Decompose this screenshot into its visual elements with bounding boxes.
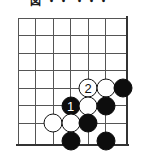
black-stone-c5r5[interactable] <box>96 96 115 115</box>
black-stone-c3r7[interactable] <box>61 131 80 150</box>
go-diagram-figure: 図 ・・ ・・・ <box>0 0 141 155</box>
black-move-1[interactable]: 1 <box>61 96 80 115</box>
white-stone-c2r6[interactable] <box>44 114 63 133</box>
black-stone-c5r7[interactable] <box>96 131 115 150</box>
white-stone-c3r6[interactable] <box>61 114 80 133</box>
diagram-caption-strip: 図 ・・ ・・・ <box>0 0 141 8</box>
black-stone-c4r6[interactable] <box>79 114 98 133</box>
go-board[interactable]: 21 <box>0 8 141 155</box>
black-stone-c6r4[interactable] <box>114 79 133 98</box>
white-move-2[interactable]: 2 <box>79 79 98 98</box>
white-stone-c4r5[interactable] <box>79 96 98 115</box>
diagram-caption: 図 ・・ ・・・ <box>30 0 110 8</box>
white-stone-c5r4[interactable] <box>96 79 115 98</box>
move-number-label: 2 <box>80 80 97 97</box>
move-number-label: 1 <box>62 97 79 114</box>
